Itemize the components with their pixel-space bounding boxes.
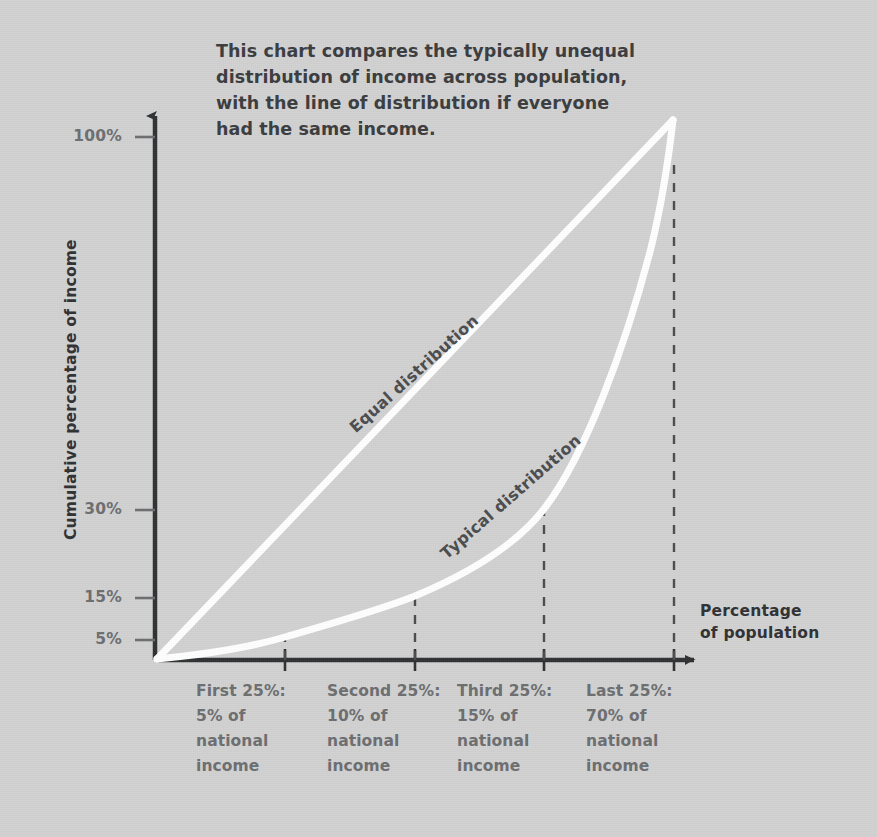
equal-distribution-line xyxy=(157,120,673,659)
y-axis-title: Cumulative percentage of income xyxy=(62,239,80,540)
y-tick-label-wrap-15: 15% xyxy=(0,588,122,608)
y-axis-ticks xyxy=(135,137,155,640)
x-caption-last-quartile: Last 25%: 70% of national income xyxy=(586,679,711,779)
x-caption-second-quartile: Second 25%: 10% of national income xyxy=(327,679,452,779)
y-tick-label-wrap-30: 30% xyxy=(0,500,122,520)
x-caption-first-quartile: First 25%: 5% of national income xyxy=(196,679,321,779)
x-axis-title: Percentage of population xyxy=(700,600,860,644)
y-tick-label-15: 15% xyxy=(84,588,122,606)
chart-description: This chart compares the typically unequa… xyxy=(216,38,636,142)
y-tick-label-100: 100% xyxy=(73,127,122,145)
y-tick-label-5: 5% xyxy=(95,630,122,648)
lorenz-curve-chart: This chart compares the typically unequa… xyxy=(0,0,877,837)
x-caption-third-quartile: Third 25%: 15% of national income xyxy=(457,679,582,779)
quartile-guide-lines xyxy=(285,162,674,660)
y-tick-label-wrap-5: 5% xyxy=(0,630,122,650)
y-tick-label-30: 30% xyxy=(84,500,122,518)
y-tick-label-wrap-100: 100% xyxy=(0,127,122,147)
